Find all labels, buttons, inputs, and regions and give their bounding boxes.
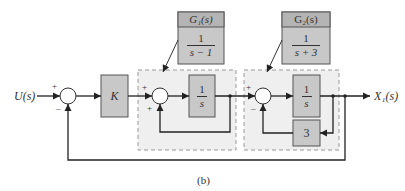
- sum2-feedback-sign: +: [147, 104, 152, 113]
- input-label: U(s): [14, 90, 35, 102]
- figure-caption: (b): [197, 174, 210, 186]
- g1-title: G₁(s): [178, 14, 224, 25]
- output-label: X₁(s): [374, 90, 398, 102]
- sum2-input-sign: +: [142, 83, 147, 92]
- g2-pointer: [267, 40, 282, 72]
- summing-junction-2: [152, 88, 168, 104]
- gain-label: K: [101, 90, 128, 102]
- sum1-feedback-sign: –: [56, 104, 61, 113]
- integrator2-denominator: s: [304, 98, 308, 109]
- g1-dashed-region: [138, 70, 236, 150]
- summing-junction-3: [255, 88, 271, 104]
- pickoff-point-3: [343, 94, 347, 98]
- integrator1-denominator: s: [200, 98, 204, 109]
- g2-dashed-region: [244, 70, 339, 150]
- g1-tf: 1 s − 1: [178, 27, 224, 64]
- pickoff-point-1: [228, 94, 232, 98]
- g2-title: G₂(s): [282, 14, 330, 25]
- g1-numerator: 1: [198, 33, 204, 44]
- g1-pointer: [163, 40, 178, 72]
- g1-denominator: s − 1: [190, 47, 213, 58]
- g2-tf: 1 s + 3: [282, 27, 330, 64]
- integrator2-tf: 1 s: [293, 75, 320, 117]
- sum3-feedback-sign: –: [251, 104, 256, 113]
- integrator2-numerator: 1: [304, 84, 310, 95]
- integrator1-numerator: 1: [199, 84, 205, 95]
- sum3-input-sign: +: [246, 83, 251, 92]
- g2-denominator: s + 3: [295, 47, 318, 58]
- pickoff-point-2: [331, 94, 335, 98]
- summing-junction-1: [60, 88, 76, 104]
- sum1-input-sign: +: [52, 82, 57, 91]
- feedback-gain-label: 3: [293, 127, 320, 139]
- g2-numerator: 1: [303, 33, 309, 44]
- integrator1-tf: 1 s: [189, 75, 215, 117]
